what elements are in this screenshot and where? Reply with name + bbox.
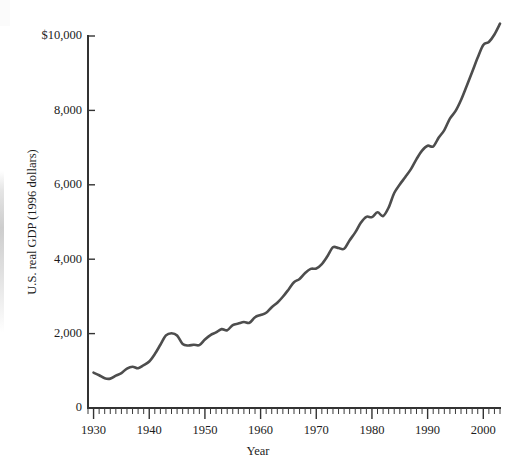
y-axis-title: U.S. real GDP (1996 dollars)	[25, 149, 39, 294]
x-tick-label: 1970	[304, 423, 329, 437]
y-tick-label: 6,000	[54, 177, 82, 191]
x-tick-label: 2000	[471, 423, 496, 437]
x-tick-label: 1930	[81, 423, 106, 437]
y-tick-label: 0	[76, 400, 82, 414]
x-tick-label: 1960	[248, 423, 273, 437]
x-tick-label: 1940	[137, 423, 162, 437]
y-tick-label: $10,000	[41, 28, 82, 42]
x-tick-label: 1990	[415, 423, 440, 437]
chart-figure: 02,0004,0006,0008,000$10,000 U.S. real G…	[0, 0, 514, 475]
gdp-line-chart: 02,0004,0006,0008,000$10,000 U.S. real G…	[0, 0, 514, 475]
y-tick-label: 2,000	[54, 326, 82, 340]
x-axis-title: Year	[246, 444, 270, 458]
y-tick-label: 8,000	[54, 103, 82, 117]
x-tick-label: 1950	[192, 423, 217, 437]
x-tick-label: 1980	[359, 423, 384, 437]
y-tick-label: 4,000	[54, 252, 82, 266]
